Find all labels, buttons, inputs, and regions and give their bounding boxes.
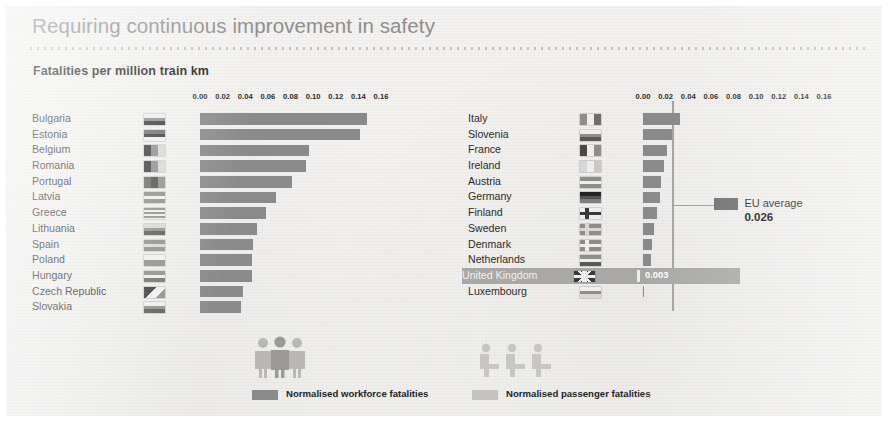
country-label: Romania	[32, 159, 74, 171]
flag-france-icon	[580, 145, 601, 156]
axis-tick: 0.16	[374, 92, 389, 101]
flag-slovakia-icon	[144, 302, 165, 313]
axis-tick: 0.04	[238, 92, 253, 101]
axis-tick: 0.04	[681, 92, 696, 101]
chart-row[interactable]: Luxembourg	[468, 284, 868, 300]
axis-tick: 0.16	[817, 92, 832, 101]
flag-belgium-icon	[144, 145, 165, 156]
country-label: Spain	[32, 238, 59, 250]
chart-row[interactable]: Germany	[468, 189, 868, 205]
country-label: Italy	[468, 112, 487, 124]
value-bar	[200, 160, 306, 172]
country-label: Sweden	[468, 222, 506, 234]
chart-panel-right: 0.000.020.040.060.080.100.120.140.16 EU …	[468, 92, 868, 299]
axis-tick: 0.10	[306, 92, 321, 101]
legend-label-passenger: Normalised passenger fatalities	[506, 388, 651, 399]
country-label: Estonia	[32, 128, 67, 140]
flag-luxembourg-icon	[580, 287, 601, 298]
chart-row[interactable]: Belgium	[32, 142, 427, 158]
value-bar	[200, 207, 266, 219]
value-bar	[643, 113, 680, 125]
chart-row[interactable]: Hungary	[32, 268, 427, 284]
axis-tick: 0.12	[771, 92, 786, 101]
chart-row[interactable]: Romania	[32, 158, 427, 174]
value-bar	[200, 301, 241, 313]
country-label: France	[468, 143, 501, 155]
bar-rows-right: EU average 0.026 ItalySloveniaFranceIrel…	[468, 111, 868, 299]
legend-label-workforce: Normalised workforce fatalities	[286, 388, 428, 399]
legend-swatch-passenger	[472, 390, 498, 400]
value-bar	[643, 254, 651, 266]
value-bar	[643, 160, 664, 172]
flag-germany-icon	[580, 192, 601, 203]
country-label: Germany	[468, 190, 512, 202]
axis-tick: 0.14	[794, 92, 809, 101]
dotted-divider	[30, 47, 866, 50]
country-label: Latvia	[32, 190, 60, 202]
chart-row[interactable]: Estonia	[32, 127, 427, 143]
chart-row[interactable]: Lithuania	[32, 221, 427, 237]
axis-tick: 0.12	[328, 92, 343, 101]
country-label: Belgium	[32, 143, 70, 155]
chart-row[interactable]: Portugal	[32, 174, 427, 190]
chart-row[interactable]: France	[468, 142, 868, 158]
country-label: Poland	[32, 253, 65, 265]
infographic-page: Requiring continuous improvement in safe…	[0, 0, 888, 422]
workforce-people-icon	[252, 336, 308, 378]
country-label: Austria	[468, 175, 501, 187]
value-bar	[200, 239, 253, 251]
x-axis-right: 0.000.020.040.060.080.100.120.140.16	[468, 92, 868, 108]
value-bar	[200, 145, 309, 157]
highlight-value-label: 0.003	[645, 269, 668, 280]
seated-passengers-icon	[476, 342, 554, 380]
country-label: Hungary	[32, 269, 72, 281]
flag-estonia-icon	[144, 130, 165, 141]
chart-row[interactable]: Greece	[32, 205, 427, 221]
axis-tick: 0.08	[283, 92, 298, 101]
axis-tick: 0.00	[193, 92, 208, 101]
x-axis-left: 0.000.020.040.060.080.100.120.140.16	[32, 92, 427, 108]
chart-row[interactable]: Latvia	[32, 189, 427, 205]
chart-row[interactable]: Ireland	[468, 158, 868, 174]
legend-swatch-workforce	[252, 390, 278, 400]
axis-tick: 0.00	[636, 92, 651, 101]
chart-row[interactable]: Sweden	[468, 221, 868, 237]
flag-greece-icon	[144, 208, 165, 219]
chart-row[interactable]: Italy	[468, 111, 868, 127]
axis-tick: 0.02	[215, 92, 230, 101]
value-bar	[643, 286, 644, 298]
page-title: Requiring continuous improvement in safe…	[32, 14, 435, 38]
country-label: Ireland	[468, 159, 500, 171]
country-label: Greece	[32, 206, 67, 218]
chart-row[interactable]: United Kingdom0.003	[462, 268, 740, 284]
value-bar	[200, 270, 252, 282]
chart-row[interactable]: Poland	[32, 252, 427, 268]
value-bar	[200, 254, 252, 266]
value-bar	[200, 286, 243, 298]
chart-row[interactable]: Netherlands	[468, 252, 868, 268]
flag-slovenia-icon	[580, 130, 601, 141]
flag-italy-icon	[580, 114, 601, 125]
axis-tick: 0.10	[749, 92, 764, 101]
chart-row[interactable]: Austria	[468, 174, 868, 190]
flag-denmark-icon	[580, 240, 601, 251]
chart-row[interactable]: Spain	[32, 237, 427, 253]
flag-ireland-icon	[580, 161, 601, 172]
value-bar	[200, 223, 257, 235]
flag-romania-icon	[144, 161, 165, 172]
chart-row[interactable]: Finland	[468, 205, 868, 221]
axis-tick: 0.02	[658, 92, 673, 101]
flag-finland-icon	[580, 208, 601, 219]
country-label: Portugal	[32, 175, 71, 187]
flag-netherlands-icon	[580, 255, 601, 266]
chart-row[interactable]: Bulgaria	[32, 111, 427, 127]
chart-row[interactable]: Czech Republic	[32, 284, 427, 300]
value-bar	[643, 239, 652, 251]
chart-row[interactable]: Slovakia	[32, 299, 427, 315]
axis-tick: 0.06	[260, 92, 275, 101]
chart-row[interactable]: Slovenia	[468, 127, 868, 143]
flag-latvia-icon	[144, 192, 165, 203]
chart-row[interactable]: Denmark	[468, 237, 868, 253]
flag-sweden-icon	[580, 224, 601, 235]
country-label: Slovenia	[468, 128, 509, 140]
